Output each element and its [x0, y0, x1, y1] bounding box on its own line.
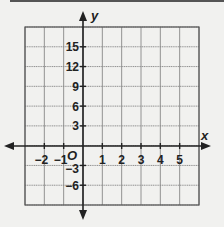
x-axis-label: x	[200, 128, 209, 143]
y-tick-label: 6	[72, 100, 79, 114]
x-tick-label: 1	[99, 153, 106, 167]
x-tick-label: 4	[157, 153, 164, 167]
y-tick-label: 3	[72, 119, 79, 133]
y-tick-label: 15	[66, 40, 80, 54]
x-tick-label: −2	[34, 153, 48, 167]
y-tick-label: 9	[72, 80, 79, 94]
x-axis-right-arrow-icon	[201, 142, 211, 150]
origin-label: O	[67, 148, 77, 163]
y-axis-down-arrow-icon	[79, 210, 87, 220]
y-tick-label: −3	[65, 162, 79, 176]
x-tick-label: 3	[138, 153, 145, 167]
grid-border	[25, 27, 199, 205]
y-axis-up-arrow-icon	[79, 11, 87, 21]
y-tick-label: −6	[65, 179, 79, 193]
y-axis	[79, 11, 87, 220]
y-tick-label: 12	[66, 60, 80, 74]
x-tick-label: 5	[176, 153, 183, 167]
x-axis-left-arrow-icon	[4, 142, 14, 150]
grid-lines	[25, 27, 199, 205]
y-axis-label: y	[90, 8, 99, 23]
x-tick-label: 2	[118, 153, 125, 167]
coordinate-plane: x y O −2−112345 1512963−3−6	[0, 0, 224, 227]
